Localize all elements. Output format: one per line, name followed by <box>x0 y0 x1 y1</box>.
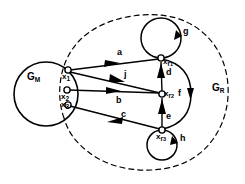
edge-label-a: a <box>117 48 122 57</box>
edge-a-arrowhead <box>104 60 120 67</box>
edge-label-f: f <box>178 89 181 98</box>
node-label-x3: x3 <box>61 101 69 111</box>
edge-f-arrowhead <box>187 88 194 100</box>
diagram-canvas <box>0 0 245 184</box>
node-label-xr2: xr2 <box>164 90 174 100</box>
edge-label-j: j <box>124 70 127 79</box>
edge-label-g: g <box>183 27 189 36</box>
node-label-xr3: xr3 <box>156 133 166 143</box>
edge-label-d: d <box>166 68 172 77</box>
region-label-gr: GR <box>212 83 224 95</box>
edge-label-h: h <box>180 134 186 143</box>
edge-b-arrowhead <box>106 87 121 94</box>
edge-label-c: c <box>121 110 126 119</box>
edge-label-b: b <box>116 96 122 105</box>
region-label-gm: GM <box>27 72 40 84</box>
graph-diagram: GM GR x1 x2 x3 xr1 xr2 xr3 a j b c d e f… <box>0 0 245 184</box>
edge-c-line <box>70 106 160 129</box>
edge-label-e: e <box>166 112 171 121</box>
edge-a-line <box>70 59 159 70</box>
edge-e-arrowhead <box>158 99 166 114</box>
edge-j-arrowhead <box>109 74 125 82</box>
node-label-x1: x1 <box>62 73 70 83</box>
